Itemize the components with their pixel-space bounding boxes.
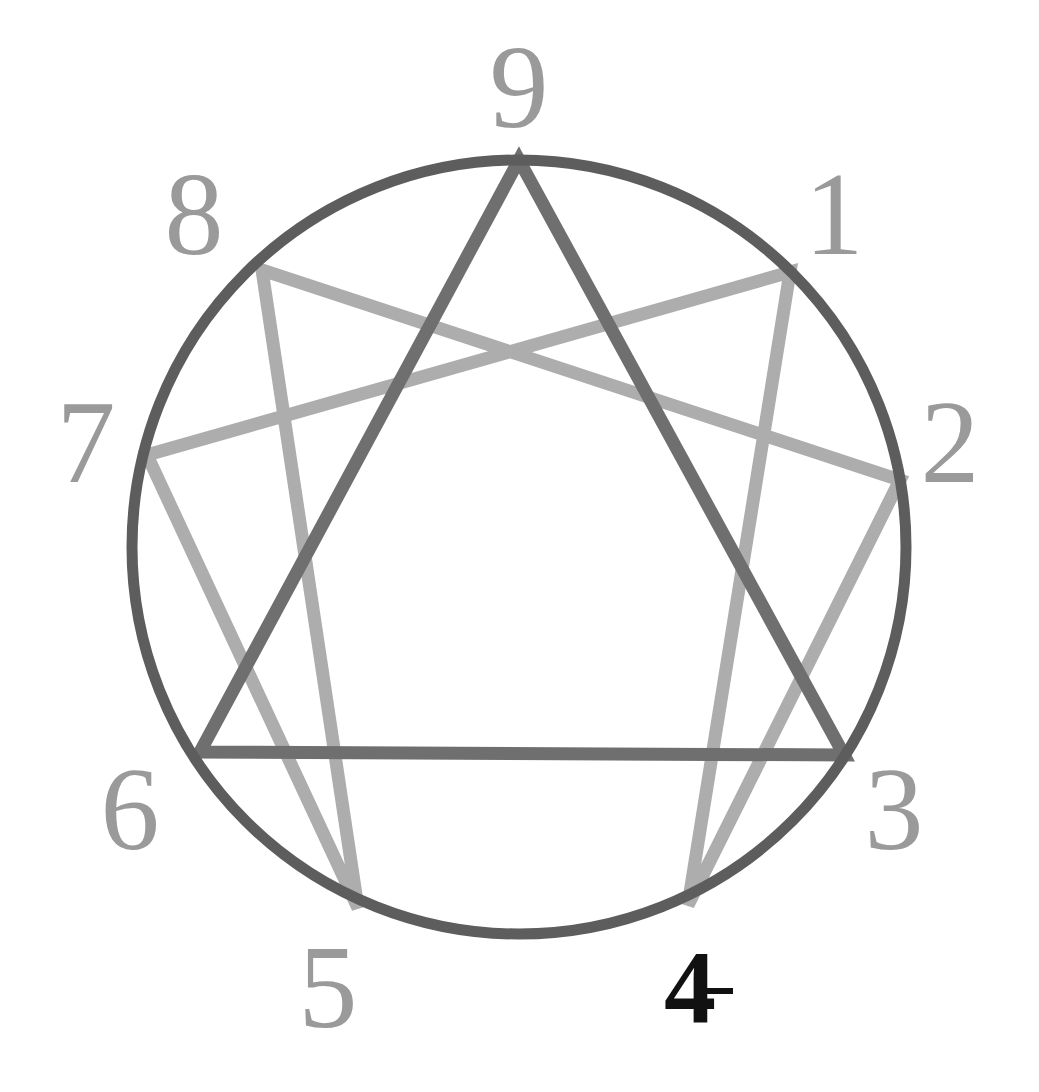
point-label-1: 1 — [805, 156, 864, 274]
point-label-2: 2 — [921, 384, 980, 502]
point-label-8: 8 — [165, 156, 224, 274]
stray-tick-mark-icon — [706, 988, 733, 994]
point-label-4: 4 — [664, 935, 716, 1039]
enneagram-circle — [132, 160, 906, 934]
hexad-polyline — [147, 270, 900, 908]
hexad-group — [147, 270, 900, 908]
circle-group — [132, 160, 906, 934]
diagram-canvas: 912345678 — [0, 0, 1039, 1092]
point-label-3: 3 — [865, 751, 924, 869]
point-label-5: 5 — [299, 929, 358, 1047]
point-label-9: 9 — [490, 29, 549, 147]
point-label-6: 6 — [101, 751, 160, 869]
enneagram-figure — [0, 0, 1039, 1092]
point-label-7: 7 — [57, 384, 116, 502]
